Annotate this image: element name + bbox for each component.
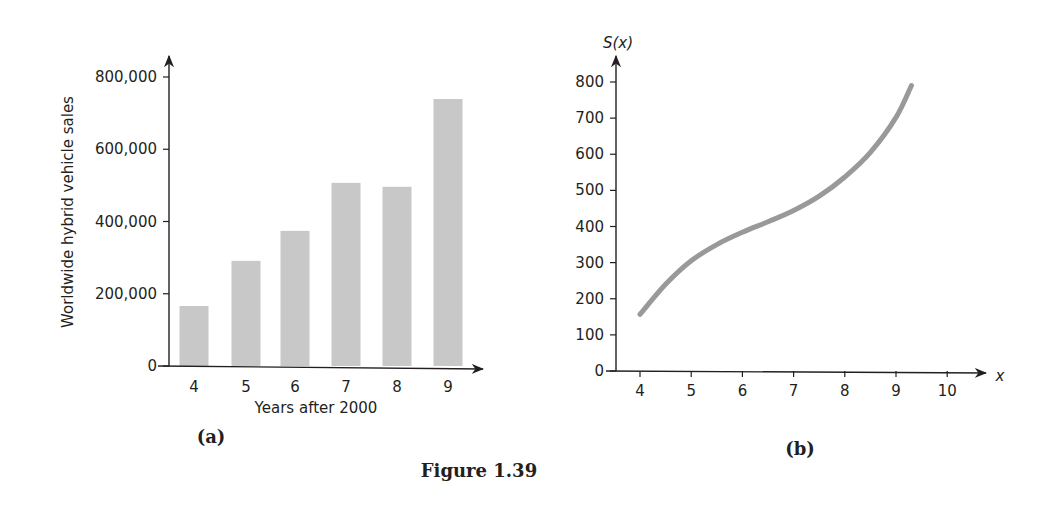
y-ticks: 0200,000400,000600,000800,000 <box>95 68 169 375</box>
x-tick-label: 5 <box>686 382 696 400</box>
x-tick-label: 8 <box>392 378 402 396</box>
y-tick-label: 0 <box>147 357 157 375</box>
bar-4 <box>180 306 209 366</box>
x-tick-label: 7 <box>789 382 799 400</box>
panel-label-a: (a) <box>197 426 226 447</box>
x-tick-label: 8 <box>840 382 850 400</box>
x-tick-label: 9 <box>443 378 453 396</box>
x-ticks: 45678910 <box>635 371 957 400</box>
y-tick-label: 200,000 <box>95 285 157 303</box>
bars <box>180 99 463 366</box>
bar-5 <box>232 261 261 366</box>
x-axis-title: x <box>995 367 1005 385</box>
x-tick-label: 5 <box>241 378 251 396</box>
x-ticks: 456789 <box>189 378 453 396</box>
bar-8 <box>383 187 412 366</box>
y-ticks: 0100200300400500600700800 <box>575 73 616 380</box>
y-axis-title: S(x) <box>603 34 633 52</box>
panel-label-b: (b) <box>785 438 815 459</box>
figure-caption: Figure 1.39 <box>421 460 537 481</box>
y-tick-label: 300 <box>575 254 604 272</box>
x-tick-label: 9 <box>891 382 901 400</box>
y-tick-label: 800 <box>575 73 604 91</box>
y-tick-label: 200 <box>575 290 604 308</box>
y-tick-label: 0 <box>594 362 604 380</box>
y-tick-label: 400 <box>575 218 604 236</box>
bar-6 <box>281 231 310 366</box>
x-axis <box>606 371 986 373</box>
x-tick-label: 4 <box>189 378 199 396</box>
x-axis <box>158 366 483 369</box>
bar-9 <box>434 99 463 366</box>
x-tick-label: 6 <box>738 382 748 400</box>
y-tick-label: 700 <box>575 109 604 127</box>
y-tick-label: 800,000 <box>95 68 157 86</box>
x-tick-label: 10 <box>938 382 957 400</box>
y-axis-title: Worldwide hybrid vehicle sales <box>59 96 77 328</box>
y-tick-label: 500 <box>575 181 604 199</box>
y-tick-label: 600,000 <box>95 140 157 158</box>
bar-7 <box>332 183 361 366</box>
figure-canvas: 0200,000400,000600,000800,000 456789 Yea… <box>0 0 1057 508</box>
bar-chart-panel-a: 0200,000400,000600,000800,000 456789 Yea… <box>59 56 483 447</box>
x-tick-label: 7 <box>341 378 351 396</box>
s-of-x-curve <box>640 86 911 315</box>
y-tick-label: 100 <box>575 326 604 344</box>
x-axis-title: Years after 2000 <box>254 399 378 417</box>
y-tick-label: 400,000 <box>95 213 157 231</box>
x-tick-label: 6 <box>290 378 300 396</box>
line-chart-panel-b: 0100200300400500600700800 45678910 x S(x… <box>575 34 1004 459</box>
y-tick-label: 600 <box>575 145 604 163</box>
x-tick-label: 4 <box>635 382 645 400</box>
